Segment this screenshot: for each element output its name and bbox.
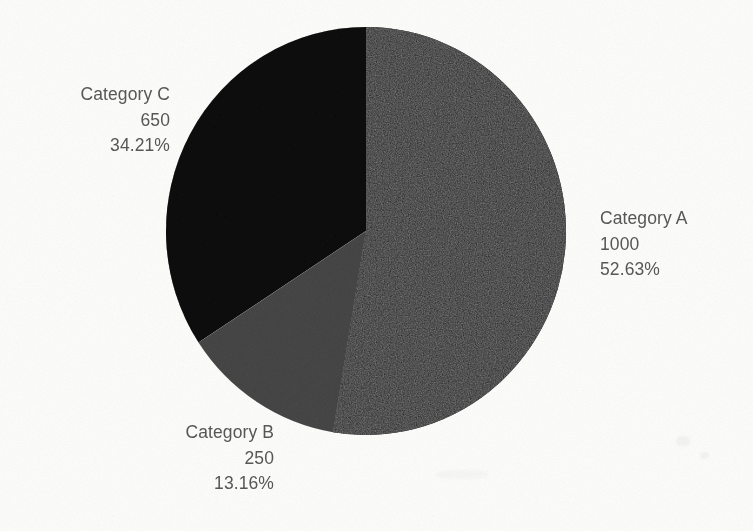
- pie-label-category-c-percent: 34.21%: [18, 133, 170, 159]
- pie-slice-category-a[interactable]: [333, 27, 566, 435]
- pie-label-category-b-name: Category B: [88, 420, 274, 446]
- pie-label-category-c-value: 650: [18, 108, 170, 134]
- pie-label-category-b-percent: 13.16%: [88, 471, 274, 497]
- pie-label-category-b-value: 250: [88, 446, 274, 472]
- pie-label-category-c-name: Category C: [18, 82, 170, 108]
- pie-chart-canvas: Category C 650 34.21% Category A 1000 52…: [0, 0, 753, 531]
- pie-label-category-a: Category A 1000 52.63%: [600, 206, 750, 283]
- pie-label-category-c: Category C 650 34.21%: [18, 82, 170, 159]
- pie-label-category-a-percent: 52.63%: [600, 257, 750, 283]
- pie-label-category-a-value: 1000: [600, 232, 750, 258]
- pie-label-category-b: Category B 250 13.16%: [88, 420, 274, 497]
- pie-label-category-a-name: Category A: [600, 206, 750, 232]
